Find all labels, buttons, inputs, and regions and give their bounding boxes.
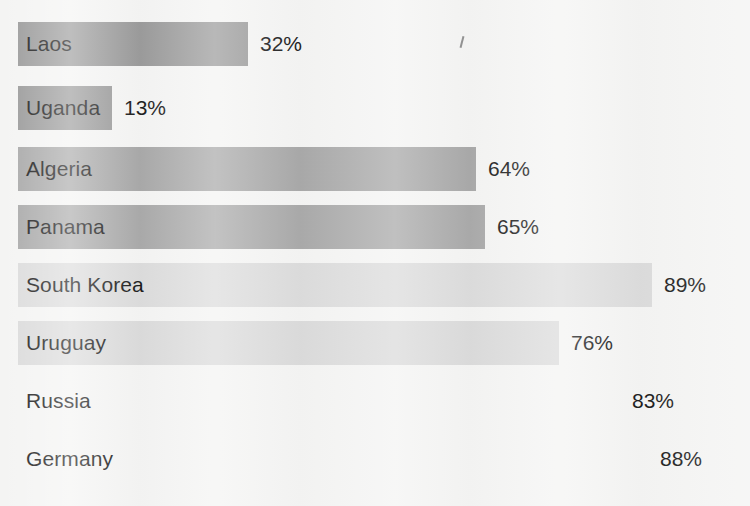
bar-category-label: Panama	[26, 205, 105, 249]
bar-row: South Korea89%	[0, 263, 750, 307]
bar-value-label: 13%	[124, 86, 166, 130]
bar-value-label: 88%	[660, 437, 702, 481]
bar	[18, 379, 620, 423]
plot-area: Laos32%Uganda13%Algeria64%Panama65%South…	[0, 0, 750, 506]
bar-category-label: Russia	[26, 379, 91, 423]
bar-category-label: Uganda	[26, 86, 100, 130]
bar-row: Algeria64%	[0, 147, 750, 191]
bar-row: Uganda13%	[0, 86, 750, 130]
bar-row: Uruguay76%	[0, 321, 750, 365]
bar-value-label: 65%	[497, 205, 539, 249]
bar-category-label: South Korea	[26, 263, 144, 307]
bar-category-label: Laos	[26, 22, 72, 66]
bar-value-label: 64%	[488, 147, 530, 191]
bar-chart: Laos32%Uganda13%Algeria64%Panama65%South…	[0, 0, 750, 506]
bar-value-label: 76%	[571, 321, 613, 365]
bar-value-label: 89%	[664, 263, 706, 307]
bar-row: Panama65%	[0, 205, 750, 249]
bar-category-label: Algeria	[26, 147, 92, 191]
bar-row: Laos32%	[0, 22, 750, 66]
bar-row: Germany88%	[0, 437, 750, 481]
bar-row: Russia83%	[0, 379, 750, 423]
bar-value-label: 32%	[260, 22, 302, 66]
bar-category-label: Uruguay	[26, 321, 106, 365]
bar-value-label: 83%	[632, 379, 674, 423]
bar-category-label: Germany	[26, 437, 113, 481]
